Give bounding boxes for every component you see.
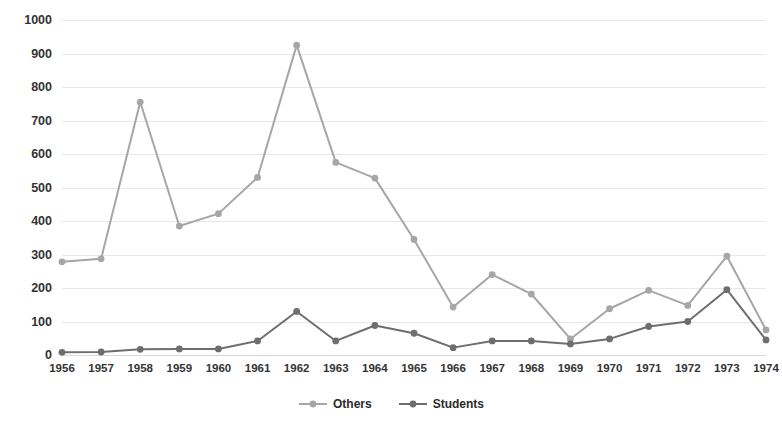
data-point xyxy=(763,326,770,333)
data-point xyxy=(59,258,66,265)
x-tick-label: 1961 xyxy=(245,363,271,375)
x-tick-label: 1974 xyxy=(753,363,779,375)
data-point xyxy=(567,341,574,348)
x-tick-label: 1967 xyxy=(479,363,505,375)
legend-marker-icon xyxy=(398,398,428,410)
y-tick-label: 700 xyxy=(0,114,52,127)
data-point xyxy=(489,338,496,345)
data-point xyxy=(215,210,222,217)
legend-label: Students xyxy=(433,398,484,410)
x-tick-label: 1956 xyxy=(49,363,75,375)
y-tick-label: 200 xyxy=(0,282,52,295)
legend-marker-icon xyxy=(298,398,328,410)
x-tick-label: 1962 xyxy=(284,363,310,375)
line-chart: 01002003004005006007008009001000 1956195… xyxy=(0,0,782,425)
data-point xyxy=(528,338,535,345)
series-layer xyxy=(62,20,766,355)
legend-entry-others[interactable]: Others xyxy=(298,398,372,410)
data-point xyxy=(723,253,730,260)
data-point xyxy=(176,346,183,353)
y-tick-label: 100 xyxy=(0,315,52,328)
x-tick-label: 1972 xyxy=(675,363,701,375)
data-point xyxy=(489,271,496,278)
x-tick-label: 1968 xyxy=(519,363,545,375)
y-tick-label: 900 xyxy=(0,47,52,60)
data-point xyxy=(723,286,730,293)
data-point xyxy=(293,42,300,49)
x-tick-label: 1964 xyxy=(362,363,388,375)
data-point xyxy=(59,349,66,356)
data-point xyxy=(98,255,105,262)
x-tick-label: 1957 xyxy=(88,363,114,375)
y-tick-label: 1000 xyxy=(0,14,52,27)
series-line xyxy=(62,45,766,339)
data-point xyxy=(411,236,418,243)
legend-label: Others xyxy=(333,398,372,410)
x-tick-label: 1965 xyxy=(401,363,427,375)
data-point xyxy=(98,349,105,356)
data-point xyxy=(332,338,339,345)
data-point xyxy=(371,175,378,182)
data-point xyxy=(684,318,691,325)
data-point xyxy=(684,302,691,309)
legend-entry-students[interactable]: Students xyxy=(398,398,484,410)
series-others xyxy=(59,42,770,343)
x-axis-labels: 1956195719581959196019611962196319641965… xyxy=(62,363,766,383)
data-point xyxy=(763,337,770,344)
y-tick-label: 800 xyxy=(0,81,52,94)
data-point xyxy=(215,346,222,353)
x-tick-label: 1969 xyxy=(558,363,584,375)
y-tick-label: 400 xyxy=(0,215,52,228)
x-tick-label: 1966 xyxy=(440,363,466,375)
y-tick-label: 500 xyxy=(0,181,52,194)
y-tick-label: 300 xyxy=(0,248,52,261)
plot-area xyxy=(62,20,766,355)
data-point xyxy=(137,346,144,353)
x-tick-label: 1963 xyxy=(323,363,349,375)
data-point xyxy=(137,99,144,106)
data-point xyxy=(606,336,613,343)
y-tick-label: 0 xyxy=(0,349,52,362)
x-tick-label: 1959 xyxy=(167,363,193,375)
chart-legend: OthersStudents xyxy=(0,398,782,410)
data-point xyxy=(645,287,652,294)
data-point xyxy=(645,323,652,330)
x-tick-label: 1971 xyxy=(636,363,662,375)
data-point xyxy=(528,291,535,298)
data-point xyxy=(176,223,183,230)
data-point xyxy=(411,330,418,337)
data-point xyxy=(450,304,457,311)
data-point xyxy=(254,338,261,345)
axis-line-zero xyxy=(62,355,766,356)
data-point xyxy=(450,344,457,351)
data-point xyxy=(606,305,613,312)
data-point xyxy=(254,174,261,181)
series-line xyxy=(62,290,766,353)
data-point xyxy=(293,308,300,315)
x-tick-label: 1958 xyxy=(127,363,153,375)
data-point xyxy=(332,159,339,166)
x-tick-label: 1973 xyxy=(714,363,740,375)
y-tick-label: 600 xyxy=(0,148,52,161)
data-point xyxy=(371,322,378,329)
x-tick-label: 1970 xyxy=(597,363,623,375)
x-tick-label: 1960 xyxy=(206,363,232,375)
